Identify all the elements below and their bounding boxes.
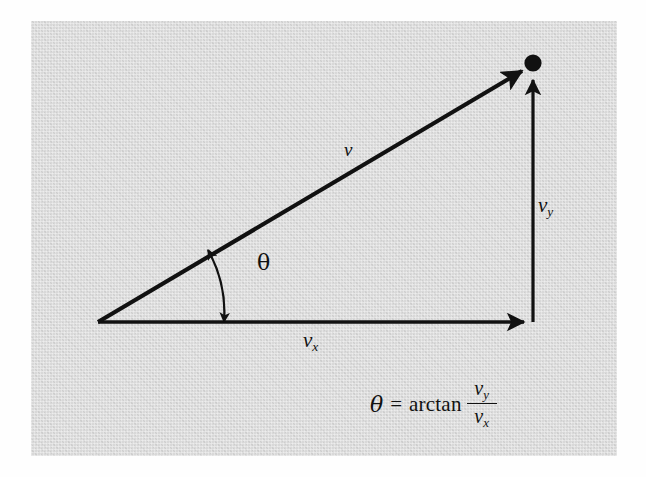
equation-theta: θ [370,392,383,417]
equation-denominator-base: v [474,405,483,427]
equation-denominator: vx [471,405,492,430]
equation-numerator-subscript: y [483,388,489,402]
label-angle-theta: θ [257,252,270,274]
label-horizontal-component-subscript: x [312,339,318,354]
vector-diagram-svg [0,0,646,477]
label-vector-magnitude: v [344,140,352,159]
equation-numerator: vy [471,377,492,402]
label-vertical-component: vy [538,195,553,218]
label-vertical-component-base: v [538,193,547,217]
label-horizontal-component: vx [303,330,318,353]
label-horizontal-component-base: v [303,328,312,352]
vector-tip-dot [524,54,541,71]
equation-denominator-subscript: x [483,416,489,430]
equation-fraction-bar [467,403,497,405]
label-vertical-component-subscript: y [547,204,553,219]
equation-arctan-function: arctan [409,392,462,417]
resultant-vector-arrow [98,71,522,322]
equation-equals-sign: = [390,392,402,417]
equation-numerator-base: v [474,377,483,399]
equation-arctan: θ = arctan vy vx [370,378,497,431]
angle-arc [208,250,224,322]
figure-root: v vy vx θ θ = arctan vy vx [0,0,646,477]
equation-fraction: vy vx [467,377,497,430]
